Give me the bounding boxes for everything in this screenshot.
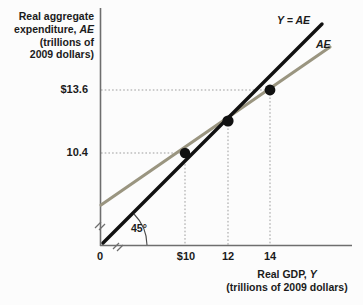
y-axis-title-line-1: Real aggregate <box>4 10 94 23</box>
series-line-y-equals-ae <box>103 24 322 243</box>
y-tick-label-10-4: 10.4 <box>30 146 88 159</box>
y-tick-label-13-6: $13.6 <box>30 83 88 96</box>
x-axis-title-line-1: Real GDP, Y <box>213 268 361 281</box>
x-axis-title-line-2: (trillions of 2009 dollars) <box>213 281 361 294</box>
angle-label-45-degrees: 45° <box>131 222 147 235</box>
series-line-ae <box>101 47 330 205</box>
y-axis-title-ae-symbol: AE <box>79 23 94 35</box>
chart-figure: Real aggregate expenditure, AE (trillion… <box>0 0 363 305</box>
data-point-14 <box>265 85 276 96</box>
legend-label-ae: AE <box>316 38 331 51</box>
data-point-10 <box>180 148 190 158</box>
data-point-equilibrium-12 <box>222 115 233 126</box>
y-axis-title-line-2: expenditure, AE <box>4 23 94 36</box>
origin-label: 0 <box>86 250 114 263</box>
x-tick-label-12: 12 <box>211 250 245 263</box>
x-tick-label-14: 14 <box>253 250 287 263</box>
y-axis-title-line-3: (trillions of <box>4 36 94 49</box>
y-axis-title-line-4: 2009 dollars) <box>4 48 94 61</box>
gridlines <box>101 90 270 246</box>
x-axis-title-y-symbol: Y <box>310 268 317 280</box>
y-axis-title: Real aggregate expenditure, AE (trillion… <box>4 10 94 61</box>
x-tick-label-10: $10 <box>166 250 206 263</box>
legend-label-y-equals-ae: Y = AE <box>277 14 310 27</box>
x-axis-title: Real GDP, Y (trillions of 2009 dollars) <box>213 268 361 294</box>
